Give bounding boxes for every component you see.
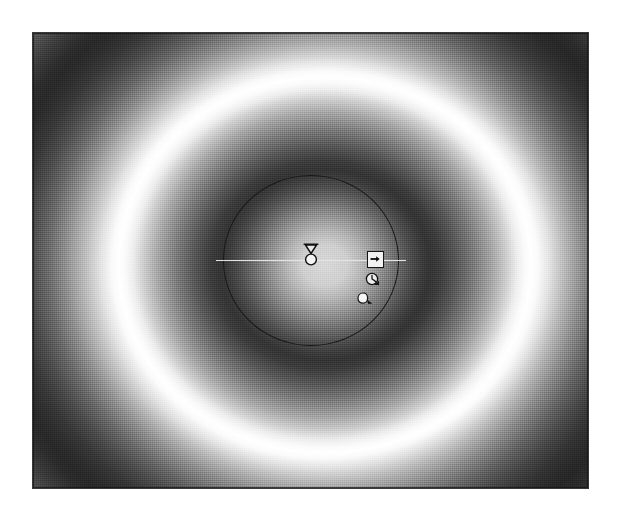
- concentric-ring-pattern: [33, 33, 588, 488]
- figure-plate: [33, 33, 588, 488]
- ring-pattern-wrapper: [33, 33, 588, 488]
- page-root: Grayscale scanned plate showing concentr…: [0, 0, 621, 521]
